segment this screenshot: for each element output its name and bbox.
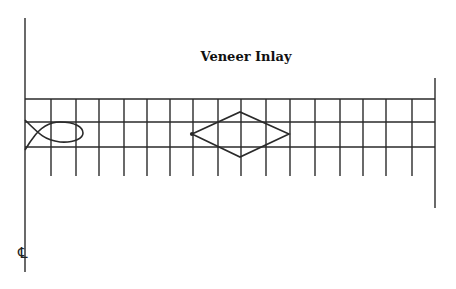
diagram-canvas [0,0,456,289]
inlay-shapes [25,112,289,157]
centerline-symbol-icon: ℄ [18,244,28,262]
diagram-title: Veneer Inlay [0,49,456,64]
diamond-point [191,133,194,136]
fish-shape [25,120,83,150]
veneer-inlay-diagram: Veneer Inlay ℄ [0,0,456,289]
